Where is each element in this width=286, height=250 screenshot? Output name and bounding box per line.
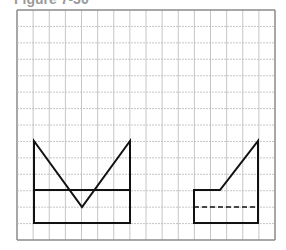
front-view-outline: [34, 141, 130, 223]
side-view-outline: [194, 141, 258, 223]
grid-lines: [17, 10, 275, 240]
grid-drawing: [0, 0, 286, 250]
